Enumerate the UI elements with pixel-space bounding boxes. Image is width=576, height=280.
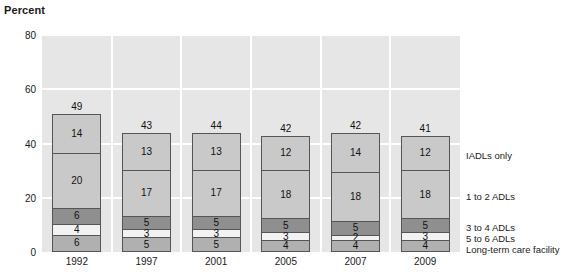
bar-segment-1997-5-to-6-adls[interactable]: 3 [123, 229, 170, 237]
plot-area: 1420646491317535431317535441218534421418… [42, 35, 460, 252]
bar-segment-2005-iadls-only[interactable]: 12 [262, 137, 309, 170]
bar-segment-1992-1-to-2-adls[interactable]: 20 [53, 153, 100, 207]
bar-segment-value: 14 [71, 129, 82, 139]
bar-segment-1997-iadls-only[interactable]: 13 [123, 134, 170, 169]
bar-segment-2007-iadls-only[interactable]: 14 [332, 134, 379, 172]
bar-total-2005: 42 [261, 123, 310, 134]
gridline-x-3 [250, 35, 252, 252]
bar-segment-1992-3-to-4-adls[interactable]: 6 [53, 208, 100, 224]
gridline-x-5 [389, 35, 391, 252]
stacked-bar-2009[interactable]: 1218534 [401, 136, 450, 252]
bar-segment-1997-1-to-2-adls[interactable]: 17 [123, 170, 170, 216]
bar-segment-value: 4 [283, 241, 289, 251]
bar-segment-value: 5 [144, 240, 150, 250]
bar-segment-value: 4 [353, 241, 359, 251]
bar-segment-value: 12 [420, 148, 431, 158]
bar-segment-2001-long-term-care-facility[interactable]: 5 [193, 237, 240, 251]
bar-segment-value: 17 [211, 188, 222, 198]
bar-segment-value: 4 [422, 241, 428, 251]
gridline-x-2 [180, 35, 182, 252]
bar-segment-1997-long-term-care-facility[interactable]: 5 [123, 237, 170, 251]
bar-segment-1992-long-term-care-facility[interactable]: 6 [53, 235, 100, 251]
bar-segment-value: 20 [71, 176, 82, 186]
bar-segment-value: 5 [213, 218, 219, 228]
bar-total-2007: 42 [331, 120, 380, 131]
x-axis-tick-2005: 2005 [251, 256, 321, 267]
bar-segment-value: 4 [74, 225, 80, 235]
bar-segment-2009-1-to-2-adls[interactable]: 18 [402, 170, 449, 219]
bar-segment-value: 13 [141, 147, 152, 157]
stacked-bar-2005[interactable]: 1218534 [261, 136, 310, 252]
bar-segment-2001-5-to-6-adls[interactable]: 3 [193, 229, 240, 237]
x-axis-tick-1992: 1992 [42, 256, 112, 267]
bar-segment-value: 14 [350, 148, 361, 158]
bar-total-2001: 44 [192, 120, 241, 131]
bar-segment-value: 5 [213, 240, 219, 250]
legend-item-iadls-only[interactable]: IADLs only [466, 151, 512, 162]
y-axis-tick-60: 60 [0, 84, 36, 95]
bar-segment-value: 6 [74, 211, 80, 221]
x-axis-tick-1997: 1997 [112, 256, 182, 267]
bar-segment-2009-5-to-6-adls[interactable]: 3 [402, 232, 449, 240]
bar-segment-2001-1-to-2-adls[interactable]: 17 [193, 170, 240, 216]
stacked-bar-1992[interactable]: 1420646 [52, 114, 101, 252]
bar-segment-1992-iadls-only[interactable]: 14 [53, 115, 100, 153]
bar-segment-2007-1-to-2-adls[interactable]: 18 [332, 172, 379, 221]
gridline-x-4 [320, 35, 322, 252]
bar-segment-value: 5 [144, 218, 150, 228]
stacked-bar-2007[interactable]: 1418524 [331, 133, 380, 252]
legend-item-1-to-2-adls[interactable]: 1 to 2 ADLs [466, 192, 515, 203]
bar-segment-value: 18 [350, 192, 361, 202]
bar-total-1992: 49 [52, 101, 101, 112]
bar-segment-value: 5 [422, 221, 428, 231]
stacked-bar-1997[interactable]: 1317535 [122, 133, 171, 252]
bar-segment-2005-long-term-care-facility[interactable]: 4 [262, 240, 309, 251]
bar-segment-2001-iadls-only[interactable]: 13 [193, 134, 240, 169]
bar-segment-1992-5-to-6-adls[interactable]: 4 [53, 224, 100, 235]
bar-segment-value: 5 [283, 221, 289, 231]
bar-segment-value: 6 [74, 238, 80, 248]
bar-segment-2005-1-to-2-adls[interactable]: 18 [262, 170, 309, 219]
legend-item-long-term-care-facility[interactable]: Long-term care facility [466, 245, 559, 256]
bar-segment-2009-iadls-only[interactable]: 12 [402, 137, 449, 170]
bar-total-1997: 43 [122, 120, 171, 131]
x-axis-tick-2007: 2007 [321, 256, 391, 267]
bar-segment-2005-3-to-4-adls[interactable]: 5 [262, 218, 309, 232]
x-axis-tick-2009: 2009 [390, 256, 460, 267]
bar-segment-value: 17 [141, 188, 152, 198]
bar-segment-value: 18 [420, 190, 431, 200]
bar-total-2009: 41 [401, 123, 450, 134]
y-axis-tick-20: 20 [0, 192, 36, 203]
bar-segment-2009-long-term-care-facility[interactable]: 4 [402, 240, 449, 251]
y-axis-tick-40: 40 [0, 138, 36, 149]
y-axis-tick-0: 0 [0, 247, 36, 258]
y-axis-tick-80: 80 [0, 30, 36, 41]
bar-segment-2005-5-to-6-adls[interactable]: 3 [262, 232, 309, 240]
stacked-bar-2001[interactable]: 1317535 [192, 133, 241, 252]
x-axis-tick-2001: 2001 [181, 256, 251, 267]
bar-segment-2009-3-to-4-adls[interactable]: 5 [402, 218, 449, 232]
bar-segment-value: 12 [280, 148, 291, 158]
y-axis-title: Percent [4, 4, 45, 16]
gridline-x-1 [111, 35, 113, 252]
bar-segment-value: 18 [280, 190, 291, 200]
bar-segment-2007-long-term-care-facility[interactable]: 4 [332, 240, 379, 251]
bar-segment-value: 13 [211, 147, 222, 157]
